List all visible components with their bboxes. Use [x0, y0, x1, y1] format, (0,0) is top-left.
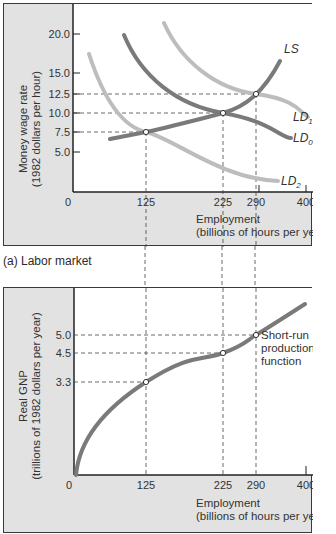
ld1-label: LD: [293, 110, 309, 124]
labor-market-chart: 20.0 15.0 12.5 10.0 7.5 5.0 0 125 225 29…: [4, 4, 313, 247]
x-tick: 125: [137, 196, 155, 208]
production-point-290: [253, 332, 258, 337]
ld0-label: LD: [293, 131, 309, 145]
equilibrium-point-290: [253, 91, 258, 96]
x-tick: 400: [297, 479, 313, 491]
x-tick: 0: [65, 196, 71, 208]
production-point-225: [220, 350, 225, 355]
y-axis-label-line2: (1982 dollars per hour): [30, 71, 42, 188]
y-tick: 7.5: [55, 126, 70, 138]
x-tick: 125: [137, 479, 155, 491]
ld2-label: LD: [281, 174, 297, 188]
x-axis-label-line2: (billions of hours per year): [196, 226, 313, 238]
x-tick: 290: [247, 196, 265, 208]
x-tick: 0: [66, 479, 72, 491]
y-axis-label-line1: Money wage rate: [17, 85, 29, 173]
y-tick: 5.0: [55, 146, 70, 158]
x-tick: 400: [297, 196, 313, 208]
production-point-125: [143, 379, 148, 384]
panel-a-caption: (a) Labor market: [3, 254, 92, 268]
y-tick: 20.0: [49, 28, 70, 40]
production-function-panel: 5.0 4.5 3.3 0 125 225 290 400 Employment…: [3, 287, 312, 533]
x-tick: 290: [247, 479, 265, 491]
equilibrium-point-225: [220, 110, 225, 115]
ld2-subscript: 2: [295, 181, 301, 190]
production-label-line1: Short-run: [261, 329, 309, 341]
y-tick: 15.0: [49, 67, 70, 79]
x-axis-label-line1: Employment: [196, 497, 261, 509]
y-tick: 5.0: [56, 329, 71, 341]
x-axis-label-line1: Employment: [196, 213, 261, 225]
x-tick: 225: [214, 479, 232, 491]
y-tick: 12.5: [49, 88, 70, 100]
production-function-chart: 5.0 4.5 3.3 0 125 225 290 400 Employment…: [4, 288, 313, 534]
production-label-line2: production: [261, 342, 313, 354]
x-tick: 225: [214, 196, 232, 208]
equilibrium-point-125: [143, 129, 148, 134]
y-tick: 3.3: [56, 376, 71, 388]
ld1-subscript: 1: [308, 117, 312, 126]
y-axis-label-line1: Real GNP: [17, 370, 29, 422]
labor-market-panel: 20.0 15.0 12.5 10.0 7.5 5.0 0 125 225 29…: [3, 3, 312, 246]
x-axis-label-line2: (billions of hours per year): [196, 510, 313, 522]
plot-area: [74, 288, 313, 475]
y-tick: 4.5: [56, 347, 71, 359]
ls-label: LS: [284, 42, 299, 56]
y-tick: 10.0: [49, 107, 70, 119]
production-label-line3: function: [261, 355, 301, 367]
y-axis-label-line2: (trillions of 1982 dollars per year): [30, 312, 42, 480]
ld0-subscript: 0: [308, 138, 313, 147]
